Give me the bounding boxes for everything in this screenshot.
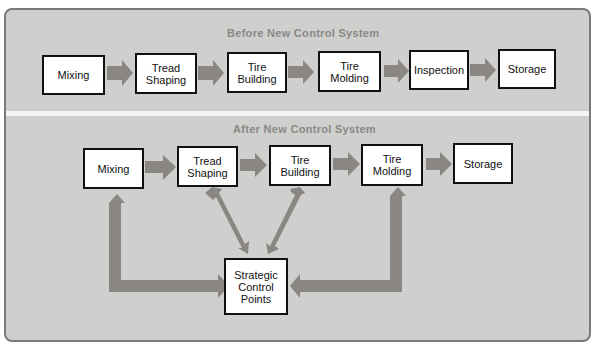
arrow-right-icon <box>470 58 496 82</box>
step-label-line2: Shaping <box>146 74 186 86</box>
arrow-right-icon <box>426 152 452 176</box>
arrow-right-icon <box>333 152 360 176</box>
elbow-arrow-molding-icon <box>290 187 406 298</box>
step-label-line2: Molding <box>373 165 412 177</box>
before-step-tire-building[interactable]: Tire Building <box>227 52 287 93</box>
step-label-line2: Molding <box>330 72 369 84</box>
after-step-tire-building[interactable]: Tire Building <box>269 145 331 186</box>
strategic-control-points[interactable]: Strategic Control Points <box>224 258 288 315</box>
hub-label-line1: Strategic <box>234 269 277 281</box>
arrow-right-icon <box>198 60 224 86</box>
step-label-line1: Tire <box>340 60 359 72</box>
before-section-title: Before New Control System <box>227 27 379 39</box>
hub-label-line2: Control <box>238 281 273 293</box>
arrow-right-icon <box>107 60 133 86</box>
diagonal-arrow-building-icon <box>266 187 305 254</box>
step-label: Storage <box>464 158 503 170</box>
step-label: Mixing <box>98 163 130 175</box>
before-step-tire-molding[interactable]: Tire Molding <box>318 51 381 92</box>
after-step-mixing[interactable]: Mixing <box>83 148 144 189</box>
arrow-right-icon <box>384 59 409 83</box>
after-section-title: After New Control System <box>233 123 376 135</box>
step-label-line2: Building <box>280 166 319 178</box>
step-label: Mixing <box>58 69 90 81</box>
after-step-storage[interactable]: Storage <box>453 143 513 184</box>
step-label-line2: Building <box>237 73 276 85</box>
step-label-line1: Tire <box>291 154 310 166</box>
after-step-tire-molding[interactable]: Tire Molding <box>361 144 423 186</box>
after-step-tread-shaping[interactable]: Tread Shaping <box>177 146 238 187</box>
step-label-line2: Shaping <box>187 167 227 179</box>
before-step-inspection[interactable]: Inspection <box>409 50 469 90</box>
arrow-right-icon <box>240 153 267 177</box>
step-label-line1: Tire <box>248 61 267 73</box>
step-label: Inspection <box>414 64 464 76</box>
diagonal-arrow-tread-icon <box>205 187 249 254</box>
before-step-tread-shaping[interactable]: Tread Shaping <box>135 53 197 94</box>
hub-label-line3: Points <box>241 293 272 305</box>
arrow-right-icon <box>288 60 314 84</box>
step-label-line1: Tire <box>383 153 402 165</box>
step-label-line1: Tread <box>152 62 180 74</box>
step-label-line1: Tread <box>193 155 221 167</box>
before-step-storage[interactable]: Storage <box>498 49 556 89</box>
elbow-arrow-mixing-icon <box>109 194 229 298</box>
before-step-mixing[interactable]: Mixing <box>42 55 105 95</box>
step-label: Storage <box>508 63 547 75</box>
arrow-right-icon <box>145 155 176 180</box>
